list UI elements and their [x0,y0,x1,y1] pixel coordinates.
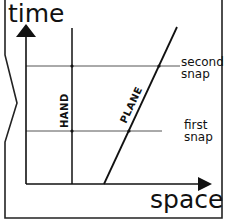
first-snap-label-line2: snap [184,130,213,144]
hand-label: HAND [59,93,70,128]
event-dot-plane-first [127,129,130,132]
spacetime-diagram: time space HAND PLANE second snap first … [0,0,225,223]
event-dot-hand-second [70,64,73,67]
event-dot-plane-second [157,64,160,67]
y-axis-label: time [8,0,64,28]
second-snap-label-line2: snap [181,67,210,81]
x-axis-label: space [150,185,223,214]
event-dot-hand-first [70,129,73,132]
plane-worldline [104,27,177,184]
